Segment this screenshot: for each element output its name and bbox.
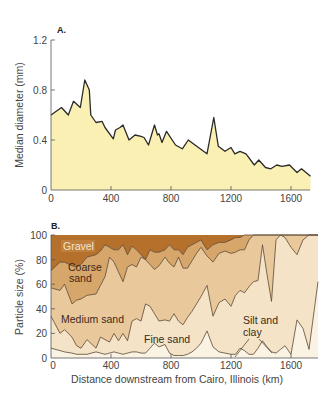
b-ytick-20: 20	[36, 328, 48, 339]
a-xtick-0: 0	[48, 193, 54, 204]
b-xtick-800: 800	[163, 360, 180, 371]
figure: A. 0 0.4 0.8 1.2 0 400 800 1200 1600 Med…	[0, 0, 336, 394]
b-xtick-0: 0	[50, 360, 56, 371]
b-y-axis-label: Particle size (%)	[13, 259, 25, 335]
a-ytick-1.2: 1.2	[33, 35, 47, 46]
b-xtick-1200: 1200	[220, 360, 243, 371]
a-ytick-0.4: 0.4	[33, 135, 47, 146]
a-y-axis-label: Median diameter (mm)	[13, 62, 25, 168]
label-medium-sand: Medium sand	[61, 313, 124, 325]
a-ytick-0.8: 0.8	[33, 85, 47, 96]
chart-a: A. 0 0.4 0.8 1.2 0 400 800 1200 1600 Med…	[13, 25, 311, 204]
b-xtick-400: 400	[103, 360, 120, 371]
b-ytick-100: 100	[30, 230, 47, 241]
label-fine-sand: Fine sand	[144, 333, 190, 345]
label-silt-and-clay-2: clay	[243, 326, 262, 338]
a-ytick-0: 0	[41, 185, 47, 196]
a-xtick-800: 800	[163, 193, 180, 204]
chart-b: B. 0 20 40 60 80 100 0 400 800 1200	[13, 221, 318, 385]
a-xtick-400: 400	[103, 193, 120, 204]
b-x-axis-label: Distance downstream from Cairo, Illinois…	[71, 373, 283, 385]
b-ytick-0: 0	[41, 353, 47, 364]
b-ytick-40: 40	[36, 304, 48, 315]
label-silt-and-clay-1: Silt and	[243, 314, 278, 326]
panel-b-label: B.	[51, 221, 60, 231]
a-xtick-1600: 1600	[280, 193, 303, 204]
a-xtick-1200: 1200	[220, 193, 243, 204]
b-ytick-80: 80	[36, 255, 48, 266]
label-coarse-sand-2: sand	[69, 272, 92, 284]
label-gravel: Gravel	[63, 240, 94, 252]
panel-a-label: A.	[57, 25, 66, 35]
b-ytick-60: 60	[36, 279, 48, 290]
b-xtick-1600: 1600	[280, 360, 303, 371]
